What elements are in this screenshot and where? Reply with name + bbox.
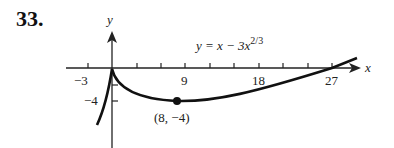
x-tick-label-neg3: −3 [74, 73, 88, 88]
equation-label: y = x − 3x2/3 [194, 35, 263, 53]
x-ticks [88, 63, 332, 68]
graph: y x y = x − 3x2/3 −3 9 18 27 −4 (8, −4) [0, 0, 394, 148]
point-label: (8, −4) [154, 110, 190, 125]
x-axis-label: x [364, 60, 371, 75]
critical-point-marker [173, 97, 181, 105]
x-tick-label-27: 27 [325, 73, 339, 88]
y-tick-label-neg4: −4 [84, 93, 98, 108]
y-ticks [112, 85, 118, 101]
y-axis-label: y [105, 12, 113, 27]
x-tick-label-18: 18 [252, 73, 265, 88]
x-tick-label-9: 9 [181, 73, 188, 88]
equation-exponent: 2/3 [250, 35, 263, 46]
curve-left-branch [97, 69, 112, 125]
equation-base: y = x − 3x [194, 38, 251, 53]
